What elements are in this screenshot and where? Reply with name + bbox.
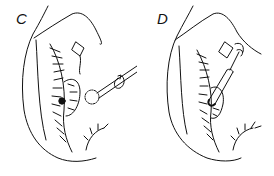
panel-d-illustration [137,0,274,176]
lesion-hatching [68,84,77,110]
face-contour [167,6,241,161]
lesion-hatching [213,108,219,116]
panel-c-illustration [0,0,137,176]
panel-d: D [137,0,274,176]
burr-head [85,90,99,104]
brow-contour [34,13,102,44]
lesion-dot [59,98,65,104]
lid-line [36,40,46,140]
probe-band [235,43,243,56]
brow-contour [175,13,261,54]
lesion-bulge [64,79,80,116]
retractor [219,42,233,58]
panel-c: C [0,0,137,176]
probe-shaft [230,52,239,70]
lower-lashes [84,124,108,150]
retractor [72,42,84,74]
face-contour [22,6,96,161]
lower-lashes [231,122,261,150]
instrument-shaft [97,66,137,98]
lid-line [179,46,187,134]
